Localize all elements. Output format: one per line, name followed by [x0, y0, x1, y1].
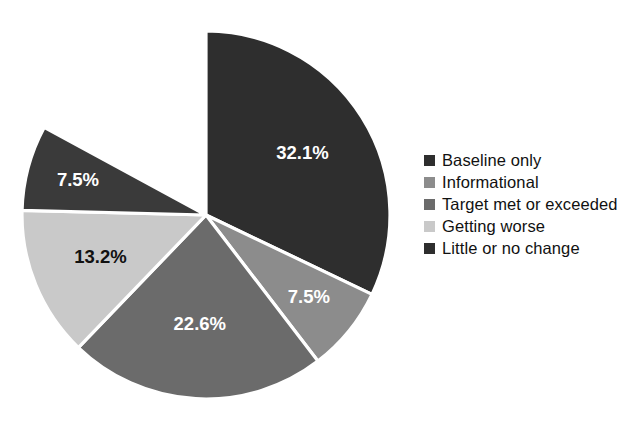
pie-slice-value-label: 13.2% [74, 246, 126, 267]
legend-item-label: Little or no change [442, 238, 580, 259]
pie-chart: Public Health Infrastructure 32.1%7.5%22… [0, 0, 641, 426]
pie-slice-value-label: 7.5% [57, 169, 99, 190]
legend-item[interactable]: Baseline only [424, 150, 634, 171]
legend-swatch-icon [424, 243, 435, 254]
pie-slice-value-label: 7.5% [288, 286, 330, 307]
chart-title: Public Health Infrastructure [0, 0, 641, 4]
pie-slice[interactable] [22, 127, 206, 215]
legend-item-label: Target met or exceeded [442, 194, 618, 215]
legend-swatch-icon [424, 221, 435, 232]
legend-item[interactable]: Getting worse [424, 216, 634, 237]
legend-item[interactable]: Little or no change [424, 238, 634, 259]
pie-plot-area: 32.1%7.5%22.6%13.2%7.5% [22, 25, 390, 405]
pie-slice-group [22, 31, 390, 399]
legend-swatch-icon [424, 199, 435, 210]
chart-title-text: Public Health Infrastructure [212, 0, 427, 4]
legend-swatch-icon [424, 155, 435, 166]
pie-slice-value-label: 22.6% [174, 313, 226, 334]
legend-item-label: Baseline only [442, 150, 541, 171]
chart-legend: Baseline onlyInformationalTarget met or … [424, 150, 634, 260]
legend-item[interactable]: Target met or exceeded [424, 194, 634, 215]
pie-svg: 32.1%7.5%22.6%13.2%7.5% [22, 25, 390, 405]
legend-swatch-icon [424, 177, 435, 188]
legend-item[interactable]: Informational [424, 172, 634, 193]
legend-item-label: Getting worse [442, 216, 545, 237]
legend-item-label: Informational [442, 172, 539, 193]
pie-slice-value-label: 32.1% [276, 142, 328, 163]
